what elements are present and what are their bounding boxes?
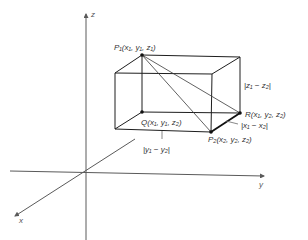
label-z-diff: |z₁ − z₂| [244, 81, 271, 90]
z-axis-label: z [90, 10, 95, 19]
label-y-diff: |y₁ − y₂| [143, 145, 170, 154]
label-Q: Q(x₁, y₁, z₂) [141, 118, 182, 127]
y-axis-label: y [258, 180, 264, 189]
bottom-back-edge [142, 112, 240, 113]
bottom-front-edge [115, 129, 211, 132]
label-P2: P₂(x₂, y₂, z₂) [208, 135, 252, 144]
point-Q [140, 110, 144, 114]
x-axis [15, 139, 135, 216]
point-P1 [140, 53, 144, 57]
segment-P2-R [211, 113, 240, 132]
top-front-edge [115, 73, 212, 74]
top-left-slant-edge [115, 55, 142, 73]
top-right-slant-edge [212, 57, 240, 74]
labels: P₁(x₁, y₁, z₁) Q(x₁, y₁, z₂) R(x₁, y₂, z… [114, 43, 286, 154]
y-axis [10, 171, 264, 176]
x-axis-label: x [18, 216, 24, 225]
bottom-left-slant-edge [115, 112, 142, 129]
label-P1: P₁(x₁, y₁, z₁) [114, 43, 156, 52]
segment-P1-R [142, 55, 240, 113]
3d-distance-diagram: z y x P₁(x₁, y₁, z₁) Q(x [0, 0, 308, 240]
label-x-diff: |x₁ − x₂| [241, 121, 268, 130]
point-P2 [209, 130, 213, 134]
top-back-edge [142, 55, 240, 57]
x-diff-tick [226, 121, 238, 124]
front-right-vertical-edge [211, 74, 212, 132]
point-R [238, 111, 242, 115]
label-R: R(x₁, y₂, z₂) [245, 110, 286, 119]
